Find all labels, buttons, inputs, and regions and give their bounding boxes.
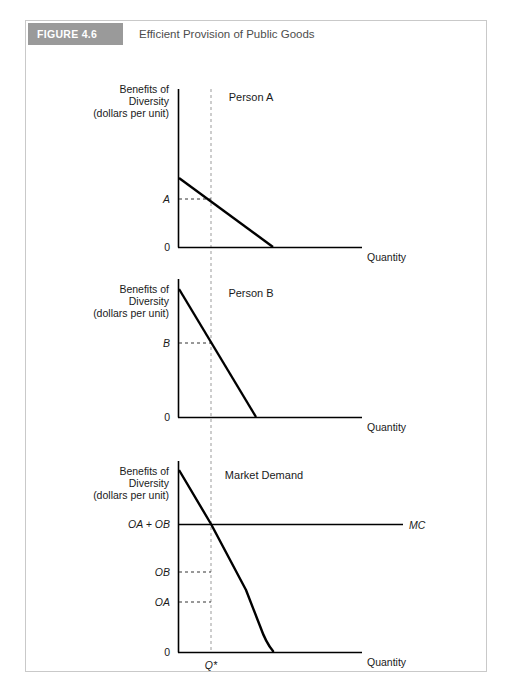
y-axis-caption-line3-market: (dollars per unit) bbox=[93, 489, 169, 501]
y-tick-label-a: A bbox=[162, 193, 170, 205]
y-tick-label-oa: OA bbox=[155, 596, 170, 608]
y-axis-caption-line1-b: Benefits of bbox=[119, 283, 169, 295]
panel-person-b: Benefits of Diversity (dollars per unit)… bbox=[93, 279, 407, 433]
y-axis-caption-line1-market: Benefits of bbox=[119, 465, 169, 477]
y-tick-label-ob: OB bbox=[155, 566, 170, 578]
panel-title-person-a: Person A bbox=[229, 91, 274, 103]
x-axis-label-a: Quantity bbox=[367, 251, 407, 263]
demand-curve-person-a bbox=[179, 178, 273, 247]
charts-area: Benefits of Diversity (dollars per unit)… bbox=[26, 47, 488, 673]
origin-label-b: 0 bbox=[164, 411, 170, 423]
panel-market-demand: Benefits of Diversity (dollars per unit)… bbox=[93, 461, 426, 671]
y-axis-caption-line1-a: Benefits of bbox=[119, 83, 169, 95]
figure-header: FIGURE 4.6 Efficient Provision of Public… bbox=[26, 21, 486, 47]
x-axis-label-b: Quantity bbox=[367, 421, 407, 433]
y-axis-caption-line2-market: Diversity bbox=[129, 477, 170, 489]
y-tick-label-b: B bbox=[163, 337, 170, 349]
figure-container: FIGURE 4.6 Efficient Provision of Public… bbox=[25, 20, 487, 672]
y-tick-label-oa-plus-ob: OA + OB bbox=[128, 518, 170, 530]
x-axis-label-market: Quantity bbox=[367, 656, 407, 668]
mc-curve-label: MC bbox=[409, 519, 426, 531]
figure-number-badge: FIGURE 4.6 bbox=[28, 23, 123, 45]
figure-svg: Benefits of Diversity (dollars per unit)… bbox=[26, 47, 488, 673]
y-axis-caption-line3-a: (dollars per unit) bbox=[93, 107, 169, 119]
q-star-label: Q* bbox=[205, 659, 218, 671]
demand-curve-person-b bbox=[179, 289, 256, 417]
figure-title: Efficient Provision of Public Goods bbox=[139, 23, 315, 45]
demand-curve-market bbox=[179, 470, 273, 652]
origin-label-market: 0 bbox=[164, 646, 170, 658]
y-axis-caption-line3-b: (dollars per unit) bbox=[93, 307, 169, 319]
panel-title-market-demand: Market Demand bbox=[225, 469, 303, 481]
y-axis-caption-line2-a: Diversity bbox=[129, 95, 170, 107]
origin-label-a: 0 bbox=[164, 241, 170, 253]
panel-title-person-b: Person B bbox=[228, 287, 273, 299]
y-axis-caption-line2-b: Diversity bbox=[129, 295, 170, 307]
panel-person-a: Benefits of Diversity (dollars per unit)… bbox=[93, 83, 407, 263]
